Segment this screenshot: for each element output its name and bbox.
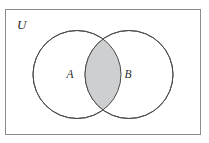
universal-set-label: U <box>17 17 28 32</box>
set-b-label: B <box>124 68 131 80</box>
set-a-label: A <box>65 68 74 80</box>
venn-diagram-canvas: U A B <box>0 0 209 143</box>
venn-diagram-figure: U A B <box>0 0 209 143</box>
